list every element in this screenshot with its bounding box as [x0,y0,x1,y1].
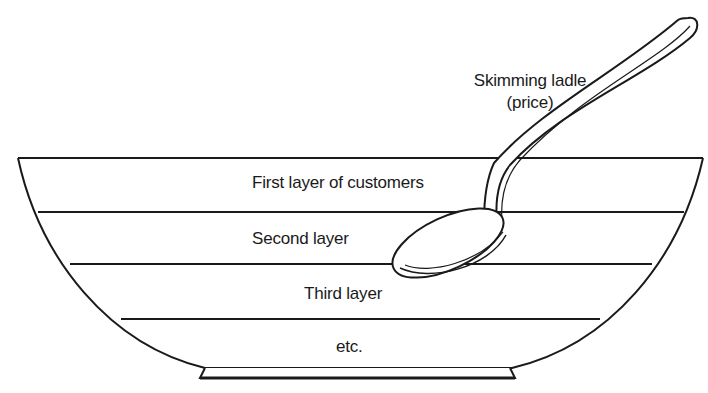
skimming-ladle-icon [383,18,698,292]
bowl-base [200,368,515,378]
layer-label-etc: etc. [336,337,363,357]
ladle-label-line2: (price) [455,93,605,113]
layer-label-second: Second layer [252,229,349,249]
layer-label-first: First layer of customers [252,173,424,193]
skimming-bowl-diagram [0,0,708,393]
layer-label-third: Third layer [304,284,382,304]
ladle-label-line1: Skimming ladle [455,71,605,91]
